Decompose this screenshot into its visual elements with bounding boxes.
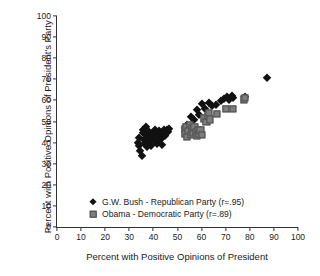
data-point-series-0 — [262, 74, 271, 83]
x-axis-tick-label: 0 — [55, 233, 60, 242]
x-axis-tick — [80, 227, 81, 231]
x-axis-tick — [297, 227, 298, 231]
legend-item-bush: G.W. Bush - Republican Party (r=.95) — [88, 196, 244, 208]
x-axis-tick-label: 30 — [125, 233, 134, 242]
y-axis-tick — [53, 163, 57, 164]
x-axis-tick-label: 60 — [197, 233, 206, 242]
y-axis-tick — [53, 36, 57, 37]
x-axis-tick-label: 100 — [291, 233, 305, 242]
x-axis-tick — [177, 227, 178, 231]
x-axis-tick — [153, 227, 154, 231]
diamond-marker-icon — [88, 197, 98, 207]
scatter-chart-figure: 0102030405060708090100010203040506070809… — [0, 0, 320, 276]
data-point-series-1 — [241, 95, 248, 102]
y-axis-tick — [53, 58, 57, 59]
y-axis-tick — [53, 15, 57, 16]
x-axis-tick-label: 20 — [100, 233, 109, 242]
y-axis-tick — [53, 205, 57, 206]
y-axis-tick — [53, 79, 57, 80]
data-point-series-1 — [206, 116, 213, 123]
x-axis-tick — [105, 227, 106, 231]
data-point-series-1 — [214, 111, 221, 118]
x-axis-tick-label: 80 — [245, 233, 254, 242]
data-point-series-0 — [158, 141, 167, 150]
legend-item-obama: Obama - Democratic Party (r=.89) — [88, 208, 244, 220]
legend-label-bush: G.W. Bush - Republican Party (r=.95) — [102, 198, 244, 207]
data-point-series-1 — [222, 105, 229, 112]
x-axis-title: Percent with Positive Opinions of Presid… — [56, 252, 298, 262]
y-axis-tick — [53, 121, 57, 122]
x-axis-tick — [225, 227, 226, 231]
legend-label-obama: Obama - Democratic Party (r=.89) — [102, 210, 232, 219]
chart-legend: G.W. Bush - Republican Party (r=.95) Oba… — [88, 196, 244, 220]
y-axis-title: Percent with Positive Opinions of Presid… — [43, 17, 53, 237]
x-axis-tick-label: 70 — [221, 233, 230, 242]
y-axis-tick — [53, 184, 57, 185]
x-axis-tick — [201, 227, 202, 231]
x-axis-tick — [56, 227, 57, 231]
x-axis-tick — [129, 227, 130, 231]
x-axis-tick — [249, 227, 250, 231]
y-axis-tick — [53, 100, 57, 101]
data-point-series-1 — [229, 105, 236, 112]
x-axis-tick-label: 50 — [173, 233, 182, 242]
x-axis-tick — [273, 227, 274, 231]
x-axis-tick-label: 90 — [269, 233, 278, 242]
x-axis-tick-label: 10 — [76, 233, 85, 242]
data-point-series-1 — [198, 131, 205, 138]
square-marker-icon — [88, 209, 98, 219]
y-axis-tick — [53, 142, 57, 143]
x-axis-tick-label: 40 — [149, 233, 158, 242]
